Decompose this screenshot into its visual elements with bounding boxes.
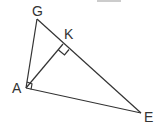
segment-GE [37,19,141,113]
label-A: A [12,80,22,96]
right-angle-marker-K [59,50,70,56]
label-K: K [64,26,74,42]
label-G: G [32,3,43,19]
geometry-diagram: G K A E [0,0,162,130]
label-E: E [144,109,153,125]
segment-AE [26,88,141,113]
